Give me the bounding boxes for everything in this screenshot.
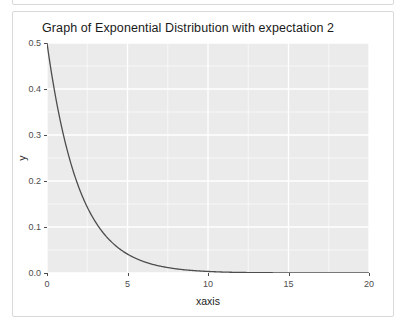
y-axis-title-text: y bbox=[16, 155, 28, 160]
x-axis-tick-labels: 05101520 bbox=[47, 279, 369, 293]
x-tick-label: 0 bbox=[44, 279, 49, 289]
partial-panel-above bbox=[12, 0, 394, 5]
y-tick-label: 0.2 bbox=[28, 176, 41, 186]
plot-area: Graph of Exponential Distribution with e… bbox=[13, 12, 393, 316]
x-tick-label: 20 bbox=[364, 279, 374, 289]
x-tick-mark bbox=[289, 273, 290, 276]
x-tick-mark bbox=[369, 273, 370, 276]
y-tick-mark bbox=[44, 89, 47, 90]
y-tick-mark bbox=[44, 227, 47, 228]
chart-card: Graph of Exponential Distribution with e… bbox=[12, 11, 394, 317]
x-tick-label: 10 bbox=[203, 279, 213, 289]
y-tick-label: 0.1 bbox=[28, 222, 41, 232]
y-axis-title: y bbox=[15, 43, 29, 273]
x-tick-label: 15 bbox=[283, 279, 293, 289]
y-tick-label: 0.4 bbox=[28, 84, 41, 94]
y-tick-mark bbox=[44, 43, 47, 44]
plot-panel bbox=[47, 43, 369, 273]
x-axis-tick-marks bbox=[47, 273, 369, 277]
y-tick-label: 0.0 bbox=[28, 268, 41, 278]
x-tick-mark bbox=[128, 273, 129, 276]
x-axis-title: xaxis bbox=[47, 295, 369, 307]
x-tick-mark bbox=[47, 273, 48, 276]
x-tick-label: 5 bbox=[125, 279, 130, 289]
y-axis-tick-marks bbox=[43, 43, 47, 273]
y-tick-label: 0.3 bbox=[28, 130, 41, 140]
y-tick-mark bbox=[44, 181, 47, 182]
plot-panel-svg bbox=[47, 43, 369, 273]
y-tick-label: 0.5 bbox=[28, 38, 41, 48]
x-tick-mark bbox=[208, 273, 209, 276]
chart-title: Graph of Exponential Distribution with e… bbox=[42, 21, 334, 35]
y-tick-mark bbox=[44, 135, 47, 136]
